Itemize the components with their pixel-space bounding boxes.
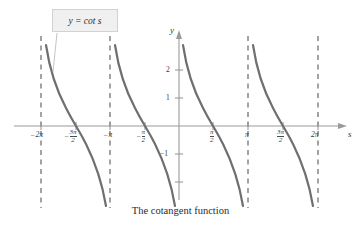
figure-caption: The cotangent function (0, 205, 361, 216)
denominator: 2 (70, 136, 77, 145)
y-axis-arrow (176, 30, 182, 39)
denominator: 2 (142, 136, 146, 145)
y-tick-label-2: 2 (166, 66, 170, 74)
numerator: π (142, 129, 146, 137)
x-tick-label-pi-2: π2 (210, 129, 214, 145)
y-tick-label-minus-1: −1 (160, 150, 168, 158)
x-tick-minus-pi-value: π (109, 130, 113, 139)
numerator: 3π (70, 129, 77, 137)
fraction: 3π2 (277, 129, 284, 145)
plot-canvas (0, 0, 361, 230)
x-tick-label-minus-pi: −π (103, 131, 112, 139)
callout-leader-line (53, 33, 57, 72)
x-tick-label-minus-3pi-2: −3π2 (64, 129, 77, 145)
x-axis-label: s (348, 130, 352, 139)
x-tick-label-2pi: 2π (311, 131, 319, 139)
cotangent-graph-figure: y = cot s y s 2 1 −1 −2π −3π2 −π −π2 π2 … (0, 0, 361, 230)
x-tick-label-minus-2pi: −2π (30, 131, 43, 139)
x-tick-minus-2pi-value: 2π (36, 130, 44, 139)
denominator: 2 (277, 136, 284, 145)
numerator: π (210, 129, 214, 137)
fraction: π2 (210, 129, 214, 145)
fraction: 3π2 (70, 129, 77, 145)
denominator: 2 (210, 136, 214, 145)
y-tick-label-1: 1 (166, 94, 170, 102)
numerator: 3π (277, 129, 284, 137)
fraction: π2 (142, 129, 146, 145)
y-axis-label: y (170, 26, 174, 35)
x-axis-arrow (338, 123, 347, 129)
x-tick-label-3pi-2: 3π2 (277, 129, 284, 145)
x-tick-label-minus-pi-2: −π2 (136, 129, 145, 145)
function-label-text: y = cot s (68, 16, 101, 26)
y-tick-minus-1-value: 1 (164, 149, 168, 158)
function-label-callout: y = cot s (52, 9, 118, 32)
x-tick-label-pi: π (245, 131, 249, 139)
